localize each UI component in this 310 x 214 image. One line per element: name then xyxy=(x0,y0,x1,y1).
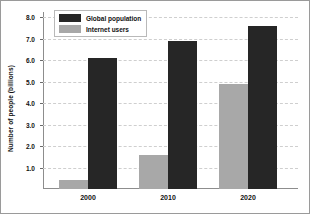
y-axis-tick-mark xyxy=(40,39,43,40)
chart-legend: Global population Internet users xyxy=(54,10,147,37)
y-axis-tick-mark xyxy=(40,82,43,83)
bar-internet-users-2020 xyxy=(219,84,248,189)
y-axis-tick-label: 1.0 xyxy=(0,164,35,171)
y-axis-tick-mark xyxy=(40,17,43,18)
legend-item-global-population: Global population xyxy=(59,14,141,22)
bar-internet-users-2010 xyxy=(139,155,168,189)
y-axis-tick-label: 6.0 xyxy=(0,57,35,64)
y-axis-tick-mark xyxy=(40,168,43,169)
x-axis-tick-label-2010: 2010 xyxy=(160,194,176,201)
bar-chart-figure: Number of people (billions) 1.02.03.04.0… xyxy=(0,0,310,214)
x-axis-tick-label-2020: 2020 xyxy=(240,194,256,201)
plot-area: 1.02.03.04.05.06.07.08.0 xyxy=(43,18,298,189)
x-axis-tick-label-2000: 2000 xyxy=(80,194,96,201)
y-axis-tick-mark xyxy=(40,125,43,126)
y-axis-tick-label: 7.0 xyxy=(0,35,35,42)
y-axis-tick-mark xyxy=(40,146,43,147)
legend-item-label: Global population xyxy=(86,15,141,22)
bar-internet-users-2000 xyxy=(59,180,88,189)
y-axis-tick-label: 4.0 xyxy=(0,100,35,107)
y-axis-tick-label: 5.0 xyxy=(0,78,35,85)
y-axis-title: Number of people (billions) xyxy=(3,1,17,214)
bar-global-population-2000 xyxy=(88,58,117,189)
bar-global-population-2020 xyxy=(248,26,277,189)
legend-item-label: Internet users xyxy=(86,26,129,33)
y-axis-tick-label: 3.0 xyxy=(0,121,35,128)
legend-item-internet-users: Internet users xyxy=(59,25,141,33)
y-axis-tick-mark xyxy=(40,60,43,61)
legend-swatch-icon xyxy=(59,25,81,33)
legend-swatch-icon xyxy=(59,14,81,22)
bar-global-population-2010 xyxy=(168,41,197,189)
y-axis-tick-label: 8.0 xyxy=(0,14,35,21)
y-axis-tick-label: 2.0 xyxy=(0,143,35,150)
y-axis-tick-mark xyxy=(40,103,43,104)
